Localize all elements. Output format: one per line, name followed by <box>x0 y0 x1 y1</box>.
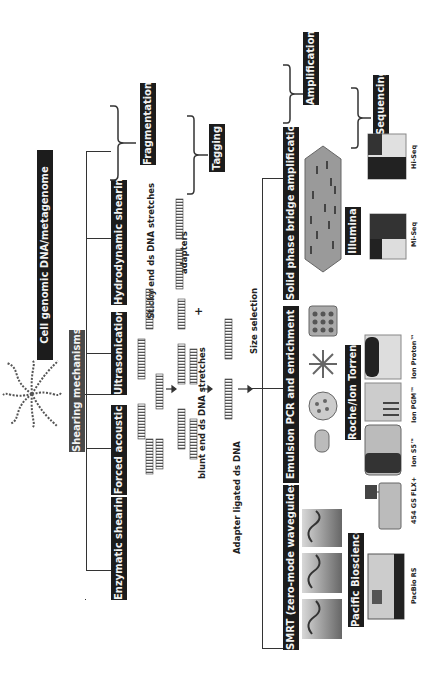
branch-line <box>86 570 111 571</box>
amplification-tree-spine <box>262 179 263 649</box>
method-ultrasonication: Ultrasonication <box>111 312 127 395</box>
method-hydrodynamic-shearing: Hydrodynamic shearing <box>111 180 127 305</box>
shearing-mechanisms-box: Shearing mechanisms <box>69 330 85 452</box>
branch-line <box>86 238 111 239</box>
method-emulsion-pcr: Emulsion PCR and enrichment <box>283 306 299 483</box>
connector-line <box>85 599 86 600</box>
branch-line <box>86 353 111 354</box>
fragmentation-bracket <box>108 105 138 181</box>
dna-tangle-icon <box>2 359 62 429</box>
emulsion-pcr-icons <box>305 304 341 454</box>
platform-illumina: Illumina <box>345 207 361 255</box>
hiseq-instrument-icon <box>368 134 406 179</box>
platform-roche-ion-torrent: Roche/Ion Torrent <box>345 345 361 440</box>
illumina-flowcell-icon <box>303 144 343 274</box>
method-solid-phase-bridge-amplification: Solid phase bridge amplification <box>283 127 299 300</box>
454-instrument-icon <box>365 479 403 529</box>
platform-pacific-bioscience: Pacific Bioscience <box>348 533 364 627</box>
branch-line <box>262 648 283 649</box>
stage-fragmentation: Fragmentation <box>140 83 156 165</box>
smrt-waveguide-images <box>302 509 344 639</box>
instrument-label-hiseq: Hi-Seq <box>410 145 418 169</box>
shearing-tree-spine <box>86 151 87 571</box>
miseq-instrument-icon <box>370 214 406 259</box>
stage-sequencing: Sequencing <box>373 75 389 135</box>
ion-proton-instrument-icon <box>363 335 403 379</box>
branch-line <box>86 448 111 449</box>
branch-line <box>262 388 283 389</box>
dna-fragments-illustration <box>128 179 268 479</box>
size-selection-stem <box>250 388 262 389</box>
diagram-canvas: Cell genomic DNA/metagenome Shearing mec… <box>0 0 435 679</box>
stage-tagging: Tagging <box>209 124 225 172</box>
instrument-label-454: 454 GS FLX+ <box>410 477 418 524</box>
instrument-label-ion-pgm: Ion PGM™ <box>410 386 418 423</box>
ion-s5-instrument-icon <box>363 425 403 475</box>
branch-line <box>262 178 283 179</box>
method-smrt: SMRT (zero-mode waveguides) <box>283 485 299 650</box>
ion-pgm-instrument-icon <box>363 383 403 421</box>
method-enzymatic-shearing: Enzymatic shearing <box>111 497 127 600</box>
pacbio-rs-instrument-icon <box>368 554 404 619</box>
instrument-label-miseq: Mi-Seq <box>410 222 418 247</box>
shearing-tree-stem <box>85 394 111 395</box>
stage-amplification: Amplification <box>303 32 319 105</box>
instrument-label-pacbio: PacBio RS <box>410 568 418 604</box>
amplification-bracket <box>282 64 304 124</box>
instrument-label-ion-s5: Ion S5™ <box>410 438 418 467</box>
source-box: Cell genomic DNA/metagenome <box>37 150 53 360</box>
instrument-label-ion-proton: Ion Proton™ <box>410 334 418 379</box>
method-forced-acoustic: Forced acoustic <box>111 405 127 495</box>
